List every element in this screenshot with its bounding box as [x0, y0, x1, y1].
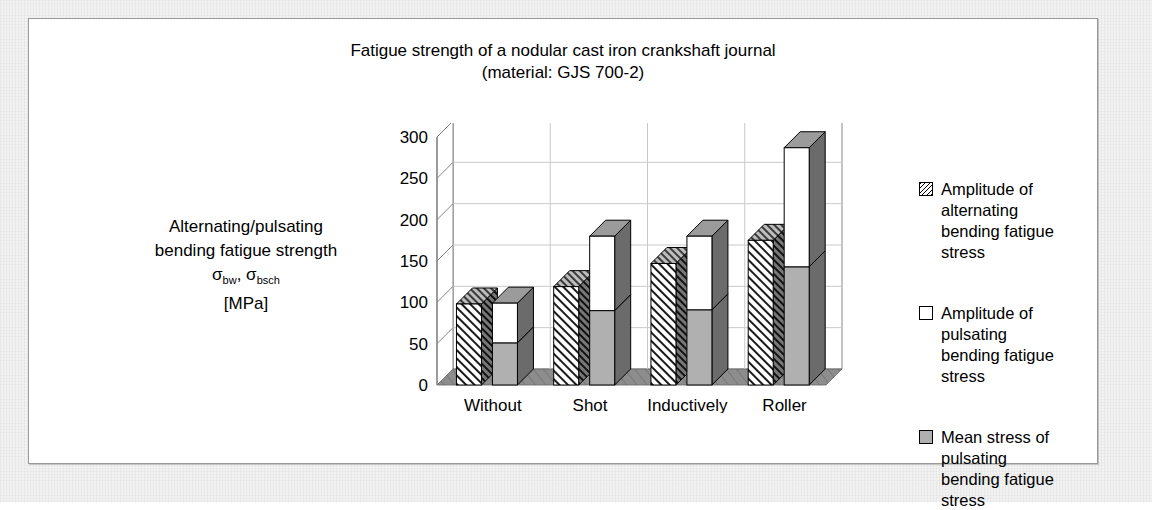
hatched-swatch-icon: [919, 182, 933, 196]
legend-item[interactable]: Mean stress of pulsating bending fatigue…: [919, 427, 1099, 510]
y-axis-caption-units: [MPa]: [121, 292, 371, 316]
legend-item[interactable]: Amplitude of pulsating bending fatigue s…: [919, 303, 1099, 387]
y-axis-tick-label: 50: [409, 335, 428, 354]
legend-label-line1: Amplitude of pulsating: [941, 304, 1033, 343]
chart-title: Fatigue strength of a nodular cast iron …: [29, 40, 1097, 84]
y-axis-caption-line2: bending fatigue strength: [121, 239, 371, 263]
sigma-sep: , σ: [237, 265, 257, 284]
legend-item[interactable]: Amplitude of alternating bending fatigue…: [919, 179, 1099, 263]
x-axis-category-label: Shot: [573, 396, 608, 413]
sigma-1-sub: bw: [223, 274, 237, 286]
x-axis-category-label: Without: [464, 396, 522, 413]
sigma-2-sub: bsch: [257, 274, 280, 286]
plot-geometry: 050100150200250300Withoutafter-treatment…: [400, 123, 842, 413]
plot-area: 050100150200250300Withoutafter-treatment…: [381, 123, 851, 413]
y-axis-tick-label: 200: [400, 211, 428, 230]
y-axis-tick-label: 0: [419, 376, 428, 395]
white-swatch-icon: [919, 306, 933, 320]
chart-legend: Amplitude of alternating bending fatigue…: [919, 179, 1099, 510]
sigma-1: σ: [212, 265, 223, 284]
y-axis-tick-label: 300: [400, 128, 428, 147]
y-axis-caption-symbols: σbw, σbsch: [121, 263, 371, 292]
chart-title-line2: (material: GJS 700-2): [29, 62, 1097, 84]
y-axis-caption: Alternating/pulsating bending fatigue st…: [121, 215, 371, 316]
legend-label-line2: bending fatigue stress: [941, 346, 1054, 385]
legend-label-line2: bending fatigue stress: [941, 470, 1054, 509]
gray-swatch-icon: [919, 430, 933, 444]
x-axis-category-label: Roller: [762, 396, 807, 413]
y-axis-tick-label: 250: [400, 169, 428, 188]
legend-label-line2: bending fatigue stress: [941, 222, 1054, 261]
y-axis-caption-line1: Alternating/pulsating: [121, 215, 371, 239]
y-axis-tick-label: 150: [400, 252, 428, 271]
legend-item-label: Mean stress of pulsating bending fatigue…: [941, 427, 1099, 510]
legend-item-label: Amplitude of alternating bending fatigue…: [941, 179, 1099, 263]
chart-title-line1: Fatigue strength of a nodular cast iron …: [350, 41, 775, 60]
x-axis-category-label: Inductively: [647, 396, 728, 413]
legend-item-label: Amplitude of pulsating bending fatigue s…: [941, 303, 1099, 387]
bar-chart-svg: 050100150200250300Withoutafter-treatment…: [381, 123, 851, 413]
legend-label-line1: Amplitude of alternating: [941, 180, 1033, 219]
y-axis-tick-label: 100: [400, 293, 428, 312]
figure-panel: Fatigue strength of a nodular cast iron …: [28, 18, 1098, 464]
legend-label-line1: Mean stress of pulsating: [941, 428, 1049, 467]
